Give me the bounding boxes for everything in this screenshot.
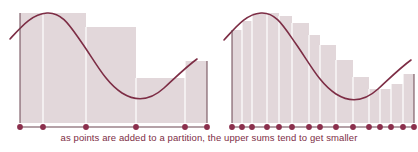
bar: [86, 27, 136, 123]
partition-dot: [229, 124, 235, 130]
bar: [320, 45, 336, 123]
riemann-upper-sum-figure: [0, 0, 418, 152]
bar: [43, 13, 86, 123]
bar: [136, 78, 185, 123]
bar: [292, 23, 309, 123]
bar: [252, 13, 267, 123]
partition-dot: [411, 124, 417, 130]
bar: [232, 30, 242, 123]
partition-dot: [239, 124, 245, 130]
partition-dot: [333, 124, 339, 130]
partition-dot: [400, 124, 406, 130]
partition-dot: [289, 124, 295, 130]
figure-canvas: [0, 0, 418, 152]
partition-dot: [317, 124, 323, 130]
bar: [403, 74, 414, 123]
partition-dot: [366, 124, 372, 130]
right-chart-panel: [224, 13, 417, 130]
partition-dot: [40, 124, 46, 130]
partition-dot: [204, 124, 210, 130]
bar: [336, 60, 353, 123]
bar: [267, 13, 279, 123]
partition-dot: [182, 124, 188, 130]
right-chart-bars: [232, 13, 414, 123]
partition-dot: [388, 124, 394, 130]
partition-dot: [17, 124, 23, 130]
bar: [391, 84, 403, 123]
partition-dot: [306, 124, 312, 130]
partition-dot: [264, 124, 270, 130]
partition-dot: [83, 124, 89, 130]
bar: [380, 89, 391, 123]
partition-dot: [133, 124, 139, 130]
partition-dot: [377, 124, 383, 130]
bar: [242, 21, 252, 123]
partition-dot: [276, 124, 282, 130]
partition-dot: [249, 124, 255, 130]
bar: [309, 35, 320, 123]
partition-dot: [350, 124, 356, 130]
figure-caption: as points are added to a partition, the …: [0, 132, 418, 143]
bar: [279, 16, 292, 123]
left-chart-panel: [10, 13, 210, 130]
bar: [20, 13, 43, 123]
bar: [185, 61, 207, 123]
left-chart-bars: [20, 13, 207, 123]
